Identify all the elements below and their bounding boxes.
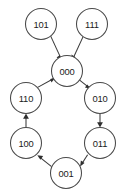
node-label: 101 (33, 19, 48, 30)
edge-001-to-100 (37, 155, 51, 166)
node-label: 001 (58, 168, 73, 179)
nodes-group: 101 111 000 110 010 100 (11, 9, 116, 189)
node-000[interactable]: 000 (52, 56, 83, 87)
node-010[interactable]: 010 (85, 83, 116, 114)
edge-100-to-110 (23, 114, 29, 128)
node-label: 100 (18, 138, 33, 149)
edge-110-to-000 (37, 78, 55, 88)
graph-svg: 101 111 000 110 010 100 (0, 0, 126, 193)
edge-010-to-011 (97, 114, 103, 128)
node-100[interactable]: 100 (11, 128, 42, 159)
arrow-head-icon (23, 114, 29, 119)
node-label: 011 (93, 138, 108, 149)
state-transition-diagram: 101 111 000 110 010 100 (0, 0, 126, 193)
node-011[interactable]: 011 (85, 128, 116, 159)
node-label: 000 (59, 66, 74, 77)
node-label: 010 (92, 93, 107, 104)
edge-line (73, 37, 83, 59)
node-111[interactable]: 111 (77, 9, 108, 40)
node-label: 111 (85, 19, 99, 30)
node-110[interactable]: 110 (11, 83, 42, 114)
node-101[interactable]: 101 (26, 9, 57, 40)
arrow-head-icon (97, 122, 103, 127)
node-001[interactable]: 001 (51, 158, 82, 189)
edge-011-to-001 (80, 155, 88, 167)
node-label: 110 (19, 93, 34, 104)
